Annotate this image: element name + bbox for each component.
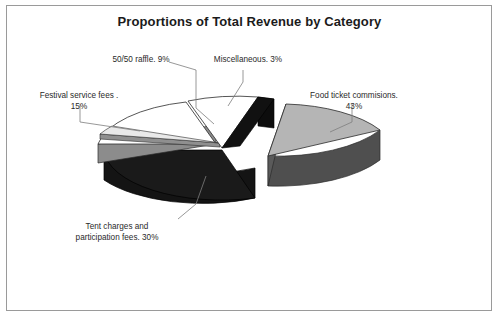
- label-miscellaneous: Miscellaneous. 3%: [193, 55, 303, 66]
- label-5050-raffle-text: 50/50 raffle. 9%: [112, 55, 169, 64]
- label-festival-line2: 15%: [71, 102, 87, 111]
- label-food-line1: Food ticket commisions.: [310, 91, 398, 100]
- label-5050-raffle: 50/50 raffle. 9%: [86, 55, 196, 66]
- label-festival-line1: Festival service fees .: [40, 91, 119, 100]
- pie-chart-graphic: [0, 0, 499, 318]
- label-food-ticket-commisions: Food ticket commisions. 43%: [292, 91, 416, 112]
- label-tent-line2: participation fees. 30%: [76, 233, 159, 242]
- label-food-line2: 43%: [346, 102, 362, 111]
- label-miscellaneous-text: Miscellaneous. 3%: [214, 55, 282, 64]
- label-festival-service-fees: Festival service fees . 15%: [24, 91, 134, 112]
- slice-food-ticket-commisions: [268, 104, 380, 186]
- label-tent-line1: Tent charges and: [86, 222, 149, 231]
- label-tent-charges: Tent charges and participation fees. 30%: [52, 222, 182, 243]
